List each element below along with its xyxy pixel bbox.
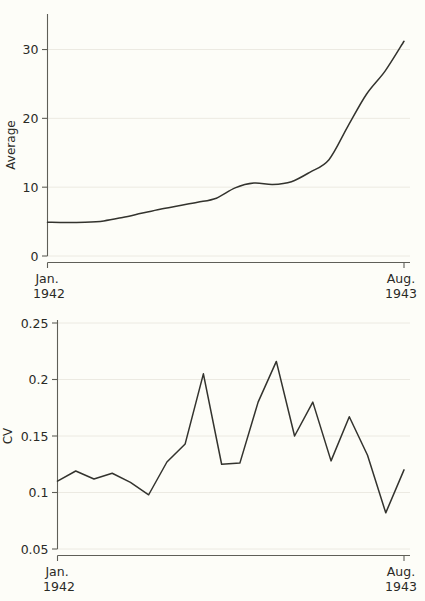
cv-xtick-left-year: 1942: [43, 579, 75, 594]
cv-axes: [58, 320, 411, 556]
cv-gridlines: [58, 323, 411, 549]
average-x-ticks: [48, 263, 405, 269]
cv-ytick-label: 0.25: [21, 316, 49, 331]
cv-ytick-label: 0.2: [29, 372, 49, 387]
average-y-ticks: 0102030: [23, 42, 48, 263]
cv-chart-panel: 0.050.10.150.20.25 CV Jan. 1942 Aug. 194…: [0, 300, 425, 601]
cv-ytick-label: 0.05: [21, 542, 49, 557]
average-axes: [48, 14, 411, 263]
average-ytick-label: 0: [31, 249, 39, 264]
cv-xtick-left-month: Jan.: [44, 564, 68, 579]
cv-y-axis-title: CV: [1, 427, 15, 444]
average-ytick-label: 30: [23, 42, 39, 57]
average-line-chart: 0102030 Average Jan. 1942 Aug. 1943: [0, 0, 425, 300]
average-data-line: [48, 41, 405, 222]
average-xtick-right-year: 1943: [385, 286, 417, 300]
cv-ytick-label: 0.15: [21, 429, 49, 444]
average-ytick-label: 10: [23, 180, 39, 195]
cv-xtick-right-year: 1943: [385, 579, 417, 594]
average-chart-panel: 0102030 Average Jan. 1942 Aug. 1943: [0, 0, 425, 300]
average-y-axis-title: Average: [4, 120, 18, 169]
average-xtick-left-year: 1942: [33, 286, 65, 300]
average-gridlines: [48, 50, 411, 256]
cv-x-ticks: [58, 556, 405, 562]
average-ytick-label: 20: [23, 111, 39, 126]
average-xtick-right-month: Aug.: [387, 271, 415, 286]
cv-data-line: [58, 361, 405, 512]
cv-ytick-label: 0.1: [29, 485, 49, 500]
average-xtick-left-month: Jan.: [34, 271, 58, 286]
cv-y-ticks: 0.050.10.150.20.25: [21, 316, 58, 557]
cv-line-chart: 0.050.10.150.20.25 CV Jan. 1942 Aug. 194…: [0, 300, 425, 601]
cv-xtick-right-month: Aug.: [387, 564, 415, 579]
